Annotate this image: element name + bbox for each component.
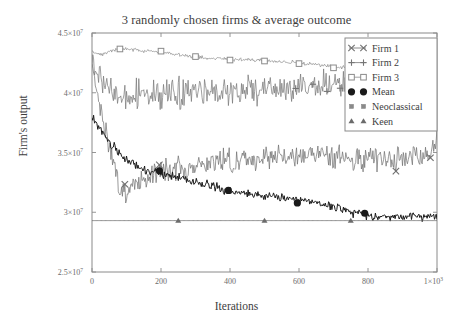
- legend-label: Keen: [372, 116, 393, 127]
- marker-circle: [348, 88, 355, 95]
- marker-square: [296, 61, 302, 67]
- y-tick-labels: 2.5×1073×1073.5×1074×1074.5×107: [58, 28, 84, 277]
- marker-small-square: [362, 104, 366, 108]
- marker-square: [331, 65, 337, 71]
- marker-square: [193, 54, 199, 60]
- y-tick-label: 3×107: [64, 207, 84, 217]
- x-tick-label: 1×103: [424, 276, 444, 286]
- x-tick-label: 400: [224, 277, 236, 286]
- marker-square: [158, 48, 164, 54]
- marker-circle: [294, 199, 301, 206]
- legend-label: Mean: [372, 86, 395, 97]
- legend-label: Firm 1: [372, 43, 399, 54]
- series-keen: [92, 218, 437, 223]
- chart-figure: 3 randomly chosen firms & average outcom…: [0, 0, 473, 330]
- marker-circle: [156, 167, 163, 174]
- x-tick-label: 600: [293, 277, 305, 286]
- chart-title: 3 randomly chosen firms & average outcom…: [0, 13, 473, 28]
- chart-legend: Firm 1Firm 2Firm 3MeanNeoclassicalKeen: [345, 38, 437, 131]
- marker-circle: [225, 187, 232, 194]
- marker-circle: [360, 88, 367, 95]
- plot-canvas: 02004006008001×1032.5×1073×1073.5×1074×1…: [0, 0, 473, 330]
- y-tick-label: 3.5×107: [58, 147, 84, 157]
- x-axis-label: Iterations: [0, 300, 473, 312]
- legend-label: Neoclassical: [372, 101, 423, 112]
- y-tick-label: 4×107: [64, 88, 84, 98]
- marker-square: [349, 74, 355, 80]
- marker-small-square: [350, 104, 354, 108]
- x-tick-label: 200: [155, 277, 167, 286]
- x-tick-label: 0: [90, 277, 94, 286]
- x-tick-label: 800: [362, 277, 374, 286]
- legend-label: Firm 2: [372, 57, 399, 68]
- marker-square: [227, 57, 233, 63]
- legend-label: Firm 3: [372, 72, 399, 83]
- marker-circle: [361, 210, 368, 217]
- marker-square: [262, 58, 268, 64]
- marker-square: [361, 74, 367, 80]
- y-tick-label: 4.5×107: [58, 28, 84, 38]
- marker-square: [117, 46, 123, 52]
- y-tick-label: 2.5×107: [58, 267, 84, 277]
- y-axis-label: Firm's output: [17, 76, 29, 176]
- x-tick-labels: 02004006008001×103: [90, 276, 443, 286]
